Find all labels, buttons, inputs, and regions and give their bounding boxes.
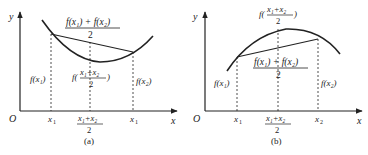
- tick-x1-sub: 1: [239, 119, 242, 125]
- convexity-diagram: y O x f(x₁) + f(x₂) 2 f(x₁) f( x₁+x₂ 2 )…: [0, 0, 368, 155]
- chord: [237, 39, 318, 57]
- caption-a: (a): [84, 136, 94, 146]
- fx1-label: f(x₁): [214, 78, 230, 88]
- chord-label-den: 2: [276, 70, 281, 80]
- y-axis-label: y: [8, 11, 14, 22]
- x-axis-label: x: [170, 115, 176, 126]
- tick-x2: x: [129, 114, 134, 124]
- tick-x1: x: [47, 114, 52, 124]
- mid-label-den: 2: [89, 79, 93, 89]
- tick-mid-num: x₁+x₂: [265, 113, 285, 123]
- origin-label: O: [9, 113, 16, 124]
- fx2-label: f(x₂): [321, 78, 337, 88]
- y-axis-label: y: [192, 11, 198, 22]
- panel-b: y O x f( x₁+x₂ 2 ) f(x₁) + f(x₂) 2 f(x₁)…: [192, 4, 362, 146]
- tick-mid-num: x₁+x₂: [77, 113, 97, 123]
- mid-label-num: x₁+x₂: [79, 67, 99, 77]
- mid-label-num: x₁+x₂: [266, 4, 286, 14]
- tick-x2: x: [314, 114, 319, 124]
- mid-label-suffix: ): [293, 9, 297, 19]
- fx1-label: f(x₁): [30, 74, 46, 84]
- mid-label-prefix: f(: [259, 9, 266, 19]
- chord-label-num: f(x₁) + f(x₂): [254, 57, 298, 68]
- tick-mid-den: 2: [275, 125, 279, 135]
- chord-label-den: 2: [88, 30, 93, 40]
- fx2-label: f(x₂): [136, 76, 152, 86]
- tick-x2-sub: 1: [135, 119, 138, 125]
- mid-label-den: 2: [276, 16, 280, 26]
- x-axis-label: x: [356, 115, 362, 126]
- chord-label-num: f(x₁) + f(x₂): [66, 17, 110, 28]
- origin-label: O: [193, 113, 200, 124]
- mid-label-prefix: f(: [72, 72, 79, 82]
- tick-x1: x: [233, 114, 238, 124]
- tick-x1-sub: 1: [53, 119, 56, 125]
- mid-label-suffix: ): [106, 72, 110, 82]
- panel-a: y O x f(x₁) + f(x₂) 2 f(x₁) f( x₁+x₂ 2 )…: [8, 11, 177, 146]
- tick-x2-sub: 2: [320, 119, 323, 125]
- caption-b: (b): [271, 136, 282, 146]
- tick-mid-den: 2: [87, 125, 91, 135]
